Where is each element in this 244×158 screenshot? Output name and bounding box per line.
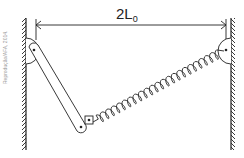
right-wall — [231, 18, 235, 150]
sliding-block — [85, 116, 93, 124]
rigid-rod — [29, 43, 86, 133]
right-pivot — [218, 38, 231, 64]
dimension-arrow — [36, 19, 226, 44]
spring — [93, 50, 224, 122]
mechanics-diagram — [0, 0, 244, 158]
left-wall — [22, 18, 26, 150]
